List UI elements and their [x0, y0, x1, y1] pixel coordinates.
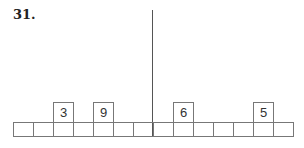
- cell-13: [274, 123, 294, 136]
- cell-4: 9: [94, 123, 114, 136]
- cell-0: [14, 123, 34, 136]
- cell-9: [194, 123, 214, 136]
- problem-number: 31.: [13, 7, 36, 22]
- value-box: 3: [53, 102, 74, 122]
- cell-8: 6: [174, 123, 194, 136]
- value-box: 5: [253, 102, 274, 122]
- cell-10: [214, 123, 234, 136]
- cell-1: [34, 123, 54, 136]
- cell-12: 5: [254, 123, 274, 136]
- cell-5: [114, 123, 134, 136]
- divider-line: [152, 10, 153, 136]
- cell-7: [154, 123, 174, 136]
- cell-11: [234, 123, 254, 136]
- cell-6: [134, 123, 154, 136]
- value-box: 9: [93, 102, 114, 122]
- cell-2: 3: [54, 123, 74, 136]
- cell-3: [74, 123, 94, 136]
- value-box: 6: [173, 102, 194, 122]
- cell-row: 3 9 6 5: [13, 122, 294, 137]
